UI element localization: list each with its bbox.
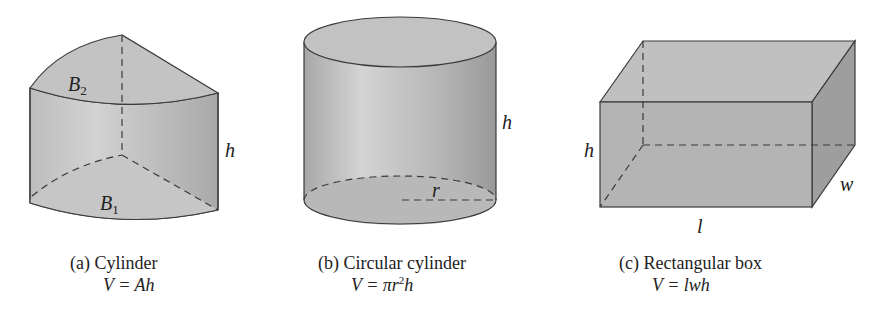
cylinder-figure <box>30 35 218 219</box>
rectangular-box-figure <box>600 41 855 207</box>
label-width: w <box>840 174 853 194</box>
label-b2: B2 <box>68 74 87 97</box>
label-height-b: h <box>502 112 512 132</box>
label-b1: B1 <box>100 193 119 216</box>
formula-cylinder: V = Ah <box>70 274 157 296</box>
label-height-a: h <box>225 140 235 160</box>
caption-rectangular-box: (c) Rectangular box V = lwh <box>619 252 762 296</box>
formula-circular-cylinder: V = πr2h <box>318 274 466 296</box>
caption-cylinder: (a) Cylinder V = Ah <box>70 252 157 296</box>
formula-rectangular-box: V = lwh <box>619 274 762 296</box>
caption-title: (a) Cylinder <box>70 253 157 273</box>
caption-title: (c) Rectangular box <box>619 253 762 273</box>
caption-title: (b) Circular cylinder <box>318 253 466 273</box>
label-height-c: h <box>584 140 594 160</box>
circular-cylinder-figure <box>304 17 496 225</box>
label-length: l <box>697 216 703 236</box>
label-radius: r <box>432 180 440 200</box>
caption-circular-cylinder: (b) Circular cylinder V = πr2h <box>318 252 466 296</box>
